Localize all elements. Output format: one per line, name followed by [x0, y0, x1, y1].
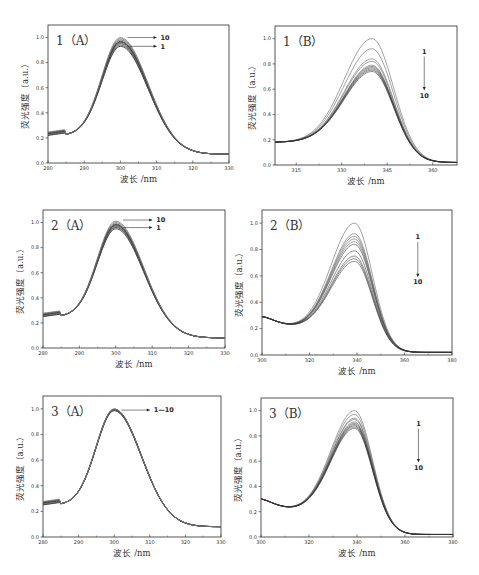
x-tick-label: 290: [74, 539, 84, 545]
chart-panel-3A: 2802903003103203300.00.20.40.60.81.0波长 /…: [15, 396, 226, 558]
series-line-8: [43, 409, 221, 526]
series-line-6: [275, 66, 457, 162]
y-tick-label: 0.6: [263, 86, 271, 92]
series-line-1: [43, 411, 221, 527]
series-line-4: [43, 410, 221, 527]
series-group: [261, 411, 453, 535]
x-tick-label: 360: [400, 357, 410, 363]
series-line-3: [43, 410, 221, 526]
x-axis-label: 波长 /nm: [113, 548, 150, 558]
y-tick-label: 0.6: [249, 458, 257, 464]
y-tick-label: 0.4: [31, 295, 39, 301]
series-line-7: [48, 41, 229, 154]
annotation-label: 1—10: [154, 406, 175, 414]
y-tick-label: 1.0: [31, 406, 39, 412]
series-line-7: [43, 409, 221, 526]
series-line-4: [262, 239, 452, 352]
series-line-5: [43, 410, 221, 527]
y-axis-label: 荧光强度（a.u.）: [15, 244, 25, 314]
y-axis-label: 荧光强度（a.u.）: [234, 248, 244, 318]
x-tick-label: 345: [382, 167, 392, 173]
x-tick-label: 330: [224, 165, 234, 171]
series-line-9: [43, 409, 221, 527]
y-tick-label: 0.4: [263, 111, 271, 117]
chart-panel-1A: 2802903003103203300.00.20.40.60.81.0波长 /…: [20, 25, 234, 184]
y-axis-label: 荧光强度（a.u.）: [233, 433, 243, 503]
y-axis-label: 荧光强度（a.u.）: [247, 61, 257, 131]
x-tick-label: 310: [147, 350, 157, 356]
y-tick-label: 1.0: [36, 34, 44, 40]
arrow-end-label: 10: [420, 92, 430, 100]
x-tick-label: 290: [75, 350, 85, 356]
y-tick-label: 0.0: [31, 534, 39, 540]
arrowhead-icon: [149, 219, 152, 222]
x-tick-label: 340: [352, 539, 362, 545]
panel-label: 2（B）: [270, 219, 310, 233]
arrowhead-icon: [416, 274, 419, 278]
y-axis-label: 荧光强度（a.u.）: [20, 59, 30, 129]
series-line-6: [261, 423, 453, 534]
panel-label: 3（B）: [269, 407, 309, 421]
y-tick-label: 0.2: [31, 320, 39, 326]
y-tick-label: 0.6: [31, 457, 39, 463]
x-tick-label: 360: [428, 167, 438, 173]
arrowhead-icon: [417, 459, 420, 463]
y-tick-label: 0.0: [36, 160, 44, 166]
series-line-10: [275, 71, 457, 162]
series-line-8: [43, 224, 225, 338]
x-tick-label: 310: [145, 539, 155, 545]
series-line-5: [43, 226, 225, 338]
y-tick-label: 0.4: [31, 483, 39, 489]
series-group: [43, 221, 225, 338]
series-line-10: [48, 38, 229, 155]
arrow-start-label: 1: [416, 420, 421, 428]
series-line-10: [262, 261, 452, 352]
x-tick-label: 320: [305, 357, 315, 363]
arrowhead-icon: [147, 409, 150, 412]
x-tick-label: 280: [38, 350, 48, 356]
x-tick-label: 380: [448, 539, 458, 545]
x-tick-label: 300: [111, 350, 121, 356]
arrowhead-icon: [423, 87, 426, 91]
series-line-5: [275, 65, 457, 162]
y-tick-label: 0.2: [249, 509, 257, 515]
chart-panel-2A: 2802903003103203300.00.20.40.60.81.0波长 /…: [15, 210, 230, 369]
y-tick-label: 0.0: [31, 345, 39, 351]
y-tick-label: 0.4: [36, 110, 44, 116]
y-tick-label: 0.2: [250, 325, 258, 331]
x-tick-label: 300: [109, 539, 119, 545]
series-line-9: [275, 70, 457, 162]
series-line-2: [261, 414, 453, 534]
panel-label: 1（B）: [283, 35, 323, 49]
x-tick-label: 290: [79, 165, 89, 171]
x-tick-label: 320: [184, 350, 194, 356]
y-tick-label: 0.6: [31, 270, 39, 276]
x-tick-label: 310: [152, 165, 162, 171]
x-tick-label: 315: [291, 167, 301, 173]
series-line-8: [48, 40, 229, 154]
y-tick-label: 0.8: [36, 59, 44, 65]
x-axis-label: 波长 /nm: [115, 359, 152, 369]
y-axis-label: 荧光强度（a.u.）: [15, 432, 25, 502]
figure-canvas: 2802903003103203300.00.20.40.60.81.0波长 /…: [0, 0, 479, 575]
series-line-9: [48, 39, 229, 154]
y-tick-label: 0.2: [36, 135, 44, 141]
y-tick-label: 0.4: [250, 299, 258, 305]
y-tick-label: 0.6: [36, 85, 44, 91]
x-tick-label: 330: [220, 350, 230, 356]
chart-panel-2B: 3003203403603800.00.20.40.60.81.0波长 /nm荧…: [234, 210, 457, 376]
panel-label: 1（A）: [56, 34, 96, 48]
series-line-7: [262, 251, 452, 353]
x-tick-label: 360: [400, 539, 410, 545]
x-tick-label: 330: [337, 167, 347, 173]
series-line-8: [261, 426, 453, 535]
series-line-3: [262, 236, 452, 352]
series-group: [275, 39, 457, 163]
y-tick-label: 1.0: [31, 219, 39, 225]
x-tick-label: 280: [38, 539, 48, 545]
arrow-end-label: 10: [413, 278, 423, 286]
x-axis-label: 波长 /nm: [347, 176, 384, 186]
panel-label: 3（A）: [51, 405, 91, 419]
series-line-3: [275, 59, 457, 163]
arrowhead-icon: [154, 45, 157, 48]
